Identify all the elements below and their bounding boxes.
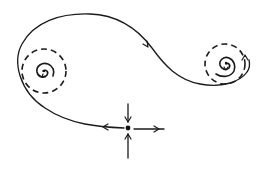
left-spiral bbox=[37, 63, 54, 77]
separatrix-trajectory bbox=[18, 14, 250, 128]
left-focus-point bbox=[43, 70, 45, 72]
right-focus-point bbox=[225, 62, 227, 64]
arrow-down-right-icon bbox=[143, 41, 148, 47]
right-limit-cycle bbox=[205, 44, 245, 84]
left-spiral-arrow-icon bbox=[42, 74, 45, 77]
right-spiral bbox=[216, 57, 235, 76]
phase-portrait-diagram bbox=[0, 0, 268, 170]
saddle-point bbox=[126, 126, 131, 131]
